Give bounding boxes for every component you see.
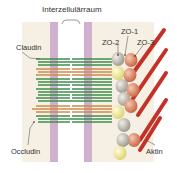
claudin-label: Claudin [16,43,41,52]
intercellular-space-label: Interzellulärraum [42,5,102,14]
zo2-label: ZO-2 [102,38,119,47]
zo3-label: ZO-3 [137,38,154,47]
occludin-label: Occludin [11,147,40,156]
zo1-label: ZO-1 [121,27,138,36]
aktin-label: Aktin [146,147,163,156]
